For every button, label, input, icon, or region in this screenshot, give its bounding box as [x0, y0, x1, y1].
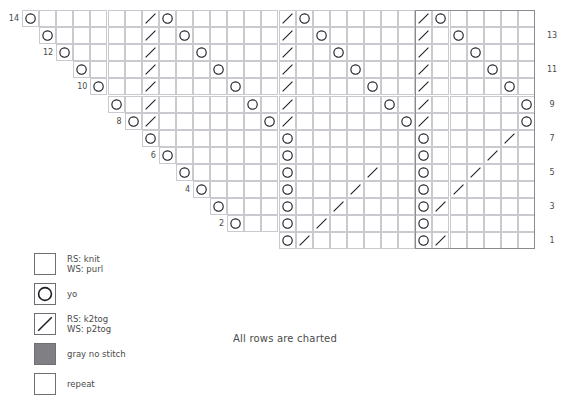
chart-cell-knit	[313, 61, 330, 78]
legend-label-yo: yo	[67, 289, 77, 300]
chart-cell-yo	[415, 147, 432, 164]
chart-cell-knit	[108, 44, 125, 61]
all-rows-charted-note: All rows are charted	[233, 333, 337, 344]
chart-cell-knit	[330, 232, 347, 249]
legend-label-gray: gray no stitch	[67, 349, 126, 360]
yo-icon	[280, 182, 295, 197]
k2tog-icon	[280, 97, 295, 112]
chart-cell-knit	[484, 44, 501, 61]
chart-cell-knit	[450, 78, 467, 95]
chart-cell-knit	[398, 164, 415, 181]
yo-icon	[177, 28, 192, 43]
yo-icon	[416, 233, 431, 248]
chart-cell-k2tog	[279, 10, 296, 27]
yo-icon	[228, 79, 243, 94]
yo-icon	[451, 28, 466, 43]
chart-cell-knit	[432, 147, 449, 164]
chart-cell-knit	[210, 96, 227, 113]
chart-cell-yo	[90, 78, 107, 95]
chart-cell-knit	[210, 181, 227, 198]
chart-cell-knit	[381, 130, 398, 147]
chart-cell-knit	[364, 130, 381, 147]
yo-icon	[211, 62, 226, 77]
chart-cell-knit	[227, 44, 244, 61]
chart-cell-knit	[398, 61, 415, 78]
chart-cell-yo	[279, 147, 296, 164]
chart-cell-knit	[381, 44, 398, 61]
row-number-left-14: 14	[1, 10, 19, 27]
chart-cell-knit	[210, 44, 227, 61]
chart-cell-knit	[296, 44, 313, 61]
chart-cell-knit	[364, 61, 381, 78]
chart-cell-yo	[210, 198, 227, 215]
chart-cell-k2tog	[313, 215, 330, 232]
yo-icon	[35, 284, 55, 304]
chart-cell-yo	[142, 130, 159, 147]
row-number-left-4: 4	[172, 181, 190, 198]
chart-cell-knit	[398, 78, 415, 95]
chart-cell-knit	[484, 215, 501, 232]
chart-cell-knit	[381, 27, 398, 44]
yo-icon	[485, 62, 500, 77]
yo-icon	[416, 182, 431, 197]
chart-cell-k2tog	[432, 232, 449, 249]
chart-cell-knit	[261, 27, 278, 44]
chart-cell-knit	[347, 44, 364, 61]
chart-cell-yo	[159, 10, 176, 27]
chart-cell-knit	[364, 10, 381, 27]
chart-cell-k2tog	[296, 232, 313, 249]
k2tog-icon	[143, 62, 158, 77]
chart-cell-knit	[261, 61, 278, 78]
k2tog-icon	[280, 79, 295, 94]
chart-cell-k2tog	[279, 78, 296, 95]
row-number-left-8: 8	[104, 113, 122, 130]
chart-cell-knit	[90, 61, 107, 78]
yo-icon	[40, 28, 55, 43]
chart-cell-knit	[501, 10, 518, 27]
chart-cell-knit	[347, 78, 364, 95]
chart-cell-knit	[296, 215, 313, 232]
yo-icon	[194, 182, 209, 197]
chart-cell-knit	[56, 10, 73, 27]
chart-cell-yo	[159, 147, 176, 164]
chart-cell-yo	[108, 96, 125, 113]
yo-icon	[280, 199, 295, 214]
k2tog-icon	[416, 79, 431, 94]
chart-cell-knit	[467, 147, 484, 164]
chart-cell-knit	[518, 232, 535, 249]
chart-cell-yo	[518, 96, 535, 113]
chart-cell-knit	[261, 181, 278, 198]
chart-cell-yo	[347, 61, 364, 78]
chart-cell-knit	[364, 147, 381, 164]
chart-cell-knit	[450, 130, 467, 147]
yo-icon	[245, 97, 260, 112]
chart-cell-knit	[347, 130, 364, 147]
yo-icon	[262, 114, 277, 129]
chart-cell-k2tog	[415, 10, 432, 27]
chart-cell-knit	[73, 27, 90, 44]
chart-cell-yo	[279, 198, 296, 215]
legend-swatch-gray-icon	[34, 343, 56, 365]
chart-cell-knit	[90, 27, 107, 44]
chart-cell-knit	[296, 113, 313, 130]
chart-cell-yo	[210, 61, 227, 78]
chart-cell-knit	[193, 10, 210, 27]
chart-cell-knit	[450, 44, 467, 61]
chart-cell-knit	[313, 44, 330, 61]
chart-cell-yo	[415, 164, 432, 181]
k2tog-icon	[485, 148, 500, 163]
chart-cell-knit	[518, 44, 535, 61]
chart-cell-knit	[193, 96, 210, 113]
chart-cell-knit	[108, 10, 125, 27]
chart-cell-k2tog	[142, 61, 159, 78]
chart-cell-knit	[159, 27, 176, 44]
chart-cell-knit	[330, 215, 347, 232]
chart-cell-knit	[450, 147, 467, 164]
k2tog-icon	[416, 11, 431, 26]
chart-cell-knit	[313, 164, 330, 181]
chart-cell-knit	[364, 113, 381, 130]
chart-cell-k2tog	[279, 113, 296, 130]
legend-swatch-repeat-icon	[34, 373, 56, 395]
chart-cell-knit	[73, 44, 90, 61]
chart-cell-knit	[296, 96, 313, 113]
